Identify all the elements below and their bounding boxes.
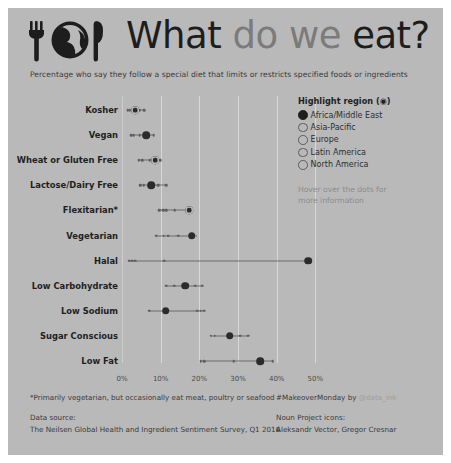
data-dot[interactable]: [148, 310, 151, 313]
data-dot[interactable]: [203, 360, 206, 363]
data-dot[interactable]: [142, 184, 145, 187]
data-dot[interactable]: [239, 335, 242, 338]
data-dot[interactable]: [143, 109, 146, 112]
credit-line: #MakeoverMonday by @data_ink: [276, 392, 441, 405]
data-dot[interactable]: [163, 259, 166, 262]
legend-item-north-america[interactable]: North America: [298, 159, 438, 171]
credit-prefix: #MakeoverMonday by: [276, 393, 359, 402]
x-axis: 0%10%20%30%40%50%: [122, 373, 327, 391]
highlighted-data-dot[interactable]: [162, 307, 170, 315]
x-axis-tick-label: 0%: [116, 375, 127, 383]
legend-items: Africa/Middle EastAsia-PacificEuropeLati…: [298, 109, 438, 171]
highlighted-data-dot[interactable]: [182, 282, 190, 290]
legend-item-label: Africa/Middle East: [311, 111, 383, 120]
data-dot[interactable]: [152, 134, 155, 137]
category-label: Wheat or Gluten Free: [17, 155, 118, 165]
data-dot[interactable]: [137, 159, 140, 162]
legend-item-label: Latin America: [311, 148, 366, 157]
title-word-1: What: [126, 14, 221, 57]
data-dot[interactable]: [214, 335, 217, 338]
data-dot[interactable]: [272, 360, 275, 363]
plot-panel: [122, 96, 327, 371]
radio-icon[interactable]: [298, 148, 308, 158]
credit-handle[interactable]: @data_ink: [359, 393, 397, 402]
title-word-2: do: [232, 14, 277, 57]
legend-item-label: North America: [311, 160, 369, 169]
legend-item-label: Asia-Pacific: [311, 123, 356, 132]
legend-hint: Hover over the dots for more information: [298, 184, 438, 206]
category-label: Low Carbohydrate: [32, 281, 118, 291]
data-dot[interactable]: [247, 335, 250, 338]
highlighted-data-dot[interactable]: [188, 232, 196, 240]
category-label: Halal: [94, 256, 118, 266]
gridline: [277, 96, 278, 363]
highlighted-data-dot[interactable]: [131, 106, 139, 114]
highlighted-data-dot[interactable]: [151, 156, 159, 164]
x-axis-tick-label: 50%: [308, 375, 324, 383]
legend-item-europe[interactable]: Europe: [298, 134, 438, 146]
data-dot[interactable]: [232, 360, 235, 363]
data-dot[interactable]: [141, 159, 144, 162]
radio-icon[interactable]: [298, 123, 308, 133]
gridline: [122, 96, 123, 363]
data-dot[interactable]: [157, 184, 160, 187]
radio-icon[interactable]: [298, 135, 308, 145]
legend-item-label: Europe: [311, 135, 339, 144]
icons-text: Aleksandr Vector, Gregor Cresnar: [276, 424, 441, 437]
category-labels: KosherVeganWheat or Gluten FreeLactose/D…: [8, 96, 118, 371]
category-label: Kosher: [85, 105, 118, 115]
data-dot[interactable]: [155, 234, 158, 237]
highlighted-data-dot[interactable]: [185, 207, 193, 215]
category-label: Vegetarian: [66, 231, 118, 241]
legend-hint-line1: Hover over the dots for: [298, 184, 438, 195]
x-axis-tick-label: 20%: [192, 375, 208, 383]
data-dot[interactable]: [139, 184, 142, 187]
data-dot[interactable]: [138, 134, 141, 137]
data-dot[interactable]: [165, 184, 168, 187]
radio-selected-icon[interactable]: [298, 110, 308, 120]
header: What do we eat? Percentage who say they …: [8, 8, 443, 70]
x-axis-tick-label: 10%: [153, 375, 169, 383]
visualization-canvas: What do we eat? Percentage who say they …: [8, 8, 443, 455]
category-label: Low Fat: [81, 356, 118, 366]
footer: *Primarily vegetarian, but occasionally …: [8, 392, 443, 455]
data-dot[interactable]: [165, 209, 168, 212]
x-axis-tick-label: 40%: [269, 375, 285, 383]
legend-item-latin-america[interactable]: Latin America: [298, 146, 438, 158]
data-dot[interactable]: [158, 209, 161, 212]
source-text: The Neilsen Global Health and Ingredient…: [30, 424, 270, 437]
data-dot[interactable]: [196, 310, 199, 313]
data-dot[interactable]: [177, 234, 180, 237]
source-label: Data source:: [30, 412, 270, 425]
highlighted-data-dot[interactable]: [143, 131, 151, 139]
category-label: Lactose/Dairy Free: [30, 180, 118, 190]
gridline: [199, 96, 200, 363]
highlighted-data-dot[interactable]: [305, 257, 313, 265]
data-dot[interactable]: [209, 335, 212, 338]
data-dot[interactable]: [173, 209, 176, 212]
radio-icon[interactable]: [298, 160, 308, 170]
footnote: *Primarily vegetarian, but occasionally …: [30, 392, 270, 405]
data-dot[interactable]: [159, 159, 162, 162]
data-dot[interactable]: [173, 284, 176, 287]
data-dot[interactable]: [162, 234, 165, 237]
range-connector: [129, 260, 308, 261]
data-dot[interactable]: [203, 310, 206, 313]
data-dot[interactable]: [201, 284, 204, 287]
data-dot[interactable]: [132, 134, 135, 137]
x-axis-tick-label: 30%: [230, 375, 246, 383]
data-dot[interactable]: [194, 284, 197, 287]
highlighted-data-dot[interactable]: [226, 332, 234, 340]
legend-title: Highlight region (◉): [298, 96, 438, 106]
legend: Highlight region (◉) Africa/Middle EastA…: [298, 96, 438, 206]
chart-subtitle: Percentage who say they follow a special…: [30, 70, 408, 79]
highlighted-data-dot[interactable]: [257, 357, 265, 365]
legend-item-asia-pacific[interactable]: Asia-Pacific: [298, 121, 438, 133]
title-word-3: we: [289, 14, 341, 57]
data-dot[interactable]: [167, 234, 170, 237]
gridline: [161, 96, 162, 363]
highlighted-data-dot[interactable]: [147, 182, 155, 190]
data-dot[interactable]: [165, 284, 168, 287]
data-dot[interactable]: [134, 259, 137, 262]
legend-item-africa-middle-east[interactable]: Africa/Middle East: [298, 109, 438, 121]
